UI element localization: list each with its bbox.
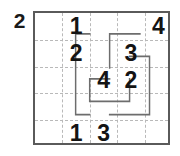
outside-row-label: 2 xyxy=(8,8,30,34)
puzzle-grid[interactable]: 1 4 2 3 4 2 1 3 xyxy=(33,11,170,145)
cell-r1c5[interactable]: 4 xyxy=(145,13,172,40)
cell-r2c2[interactable]: 2 xyxy=(62,40,89,67)
cell-r3c3[interactable]: 4 xyxy=(90,67,117,94)
digits-layer: 1 4 2 3 4 2 1 3 xyxy=(35,13,168,143)
cell-r3c4[interactable]: 2 xyxy=(117,67,144,94)
cell-r5c3[interactable]: 3 xyxy=(90,120,117,147)
cell-r5c2[interactable]: 1 xyxy=(62,120,89,147)
cell-r1c2[interactable]: 1 xyxy=(62,13,89,40)
puzzle-root: 2 1 4 2 3 4 2 1 3 xyxy=(0,0,180,156)
cell-r2c4[interactable]: 3 xyxy=(117,40,144,67)
